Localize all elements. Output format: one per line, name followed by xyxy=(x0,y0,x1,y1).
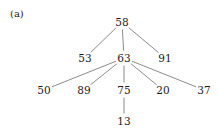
tree-node-37: 37 xyxy=(196,85,211,96)
tree-edge xyxy=(128,27,159,53)
tree-node-89: 89 xyxy=(76,85,91,96)
tree-node-20: 20 xyxy=(155,85,170,96)
tree-node-63: 63 xyxy=(116,53,131,64)
tree-figure: (a) 58536391508975203713 xyxy=(0,0,219,133)
tree-edge-layer xyxy=(0,0,219,133)
tree-edge xyxy=(91,28,117,53)
tree-node-75: 75 xyxy=(116,85,131,96)
tree-node-58: 58 xyxy=(114,17,129,28)
tree-node-50: 50 xyxy=(36,85,51,96)
tree-edge xyxy=(122,29,123,50)
tree-node-53: 53 xyxy=(77,53,92,64)
tree-node-13: 13 xyxy=(116,116,131,127)
tree-node-91: 91 xyxy=(157,53,172,64)
tree-edge xyxy=(130,63,157,85)
